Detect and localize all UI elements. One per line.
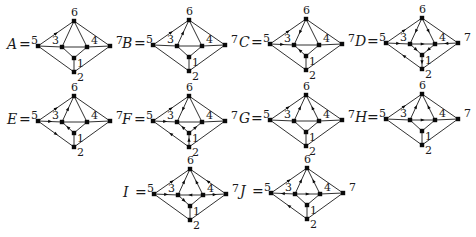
node-3 xyxy=(175,120,179,124)
node-2 xyxy=(420,143,424,147)
node-label-6: 6 xyxy=(71,6,78,19)
node-1 xyxy=(420,129,424,133)
graph-a: A=1234567 xyxy=(5,6,123,84)
node-label-1: 1 xyxy=(77,57,84,70)
node-6 xyxy=(304,17,308,21)
node-label-3: 3 xyxy=(284,108,291,121)
node-label-2: 2 xyxy=(77,71,84,84)
equals-sign: = xyxy=(135,184,147,200)
node-4 xyxy=(433,42,437,46)
node-label-1: 1 xyxy=(425,54,432,67)
node-2 xyxy=(420,67,424,71)
graph-name-label: E xyxy=(6,111,17,127)
graph-name-label: D xyxy=(354,33,366,49)
node-7 xyxy=(223,119,227,123)
equals-sign: = xyxy=(134,35,146,51)
graph-name-label: B xyxy=(121,35,132,51)
graph-f: F=1234567 xyxy=(121,81,238,159)
node-label-4: 4 xyxy=(324,181,331,194)
arrow-icon-3-to-6 xyxy=(181,30,186,35)
node-label-4: 4 xyxy=(91,109,98,122)
node-label-6: 6 xyxy=(303,4,310,17)
node-label-5: 5 xyxy=(146,109,153,122)
equals-sign: = xyxy=(251,34,263,50)
arrow-icon-6-to-3 xyxy=(298,30,303,35)
edge-5-2 xyxy=(38,46,74,72)
node-label-3: 3 xyxy=(52,34,59,47)
node-4 xyxy=(85,45,89,49)
edge-6-4 xyxy=(306,19,319,45)
equals-sign: = xyxy=(134,111,146,127)
equals-sign: = xyxy=(251,110,263,126)
node-3 xyxy=(176,193,180,197)
node-label-3: 3 xyxy=(168,182,175,195)
node-2 xyxy=(72,70,76,74)
equals-sign: = xyxy=(367,33,379,49)
graph-name-label: G xyxy=(239,110,250,126)
node-label-6: 6 xyxy=(419,79,426,92)
node-2 xyxy=(72,145,76,149)
node-label-7: 7 xyxy=(464,31,471,44)
node-3 xyxy=(60,120,64,124)
node-label-3: 3 xyxy=(400,107,407,120)
node-7 xyxy=(456,117,460,121)
node-label-3: 3 xyxy=(284,32,291,45)
node-6 xyxy=(187,18,191,22)
arrow-icon-3-to-4 xyxy=(421,118,425,121)
node-label-2: 2 xyxy=(309,69,316,82)
node-label-7: 7 xyxy=(231,109,238,122)
node-label-6: 6 xyxy=(187,154,194,167)
node-2 xyxy=(188,218,192,222)
node-6 xyxy=(305,166,309,170)
node-3 xyxy=(175,44,179,48)
equals-sign: = xyxy=(19,36,31,52)
node-label-2: 2 xyxy=(192,70,199,83)
edge-5-2 xyxy=(154,194,190,220)
node-1 xyxy=(304,130,308,134)
node-4 xyxy=(201,193,205,197)
node-2 xyxy=(305,217,309,221)
node-2 xyxy=(187,69,191,73)
node-3 xyxy=(293,192,297,196)
node-6 xyxy=(187,94,191,98)
arrow-icon-6-to-3 xyxy=(414,29,419,34)
node-4 xyxy=(433,118,437,122)
node-label-3: 3 xyxy=(400,31,407,44)
arrow-icon-6-to-4 xyxy=(426,29,431,34)
node-label-2: 2 xyxy=(310,218,317,231)
node-4 xyxy=(317,43,321,47)
arrow-icon-3-to-6 xyxy=(66,106,71,111)
arrow-icon-4-to-6 xyxy=(311,178,316,183)
node-label-4: 4 xyxy=(206,33,213,46)
graph-d: D=1234567 xyxy=(354,3,471,81)
node-1 xyxy=(187,55,191,59)
node-label-4: 4 xyxy=(206,109,213,122)
node-4 xyxy=(318,192,322,196)
node-3 xyxy=(408,42,412,46)
node-label-4: 4 xyxy=(323,108,330,121)
node-7 xyxy=(108,119,112,123)
edge-6-4 xyxy=(74,96,87,122)
node-4 xyxy=(85,120,89,124)
arrow-icon-4-to-6 xyxy=(194,179,199,184)
edge-5-2 xyxy=(270,120,306,146)
node-label-1: 1 xyxy=(309,55,316,68)
node-label-7: 7 xyxy=(464,107,471,120)
node-4 xyxy=(200,120,204,124)
arrow-icon-3-to-6 xyxy=(299,178,304,183)
node-3 xyxy=(292,119,296,123)
graph-h: H=1234567 xyxy=(354,79,471,157)
node-label-5: 5 xyxy=(147,182,154,195)
graph-figure: A=1234567B=1234567C=1234567D=1234567E=12… xyxy=(0,0,476,237)
arrow-icon-3-to-4 xyxy=(306,192,310,195)
node-label-1: 1 xyxy=(310,204,317,217)
node-1 xyxy=(72,56,76,60)
node-label-1: 1 xyxy=(192,56,199,69)
node-label-3: 3 xyxy=(285,181,292,194)
node-1 xyxy=(187,131,191,135)
node-label-7: 7 xyxy=(231,33,238,46)
node-label-6: 6 xyxy=(304,153,311,166)
node-7 xyxy=(340,42,344,46)
graph-name-label: A xyxy=(5,36,17,52)
graph-i: I=1234567 xyxy=(122,154,239,232)
